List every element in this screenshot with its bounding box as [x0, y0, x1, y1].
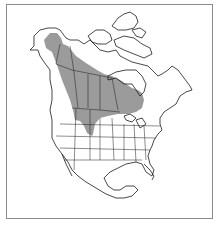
north-america-map: [0, 0, 223, 225]
